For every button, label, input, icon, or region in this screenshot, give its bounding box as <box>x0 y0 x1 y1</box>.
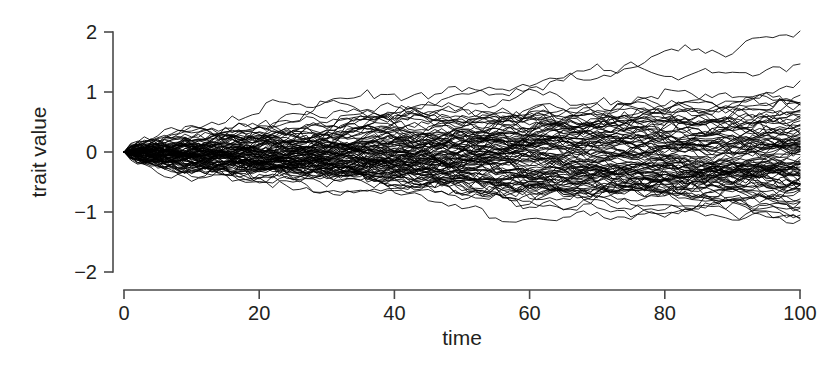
y-tick-label: 1 <box>86 81 97 103</box>
x-tick-label: 60 <box>518 302 540 324</box>
x-tick-label: 100 <box>783 302 816 324</box>
x-axis-title: time <box>442 326 482 349</box>
x-tick-label: 40 <box>383 302 405 324</box>
y-tick-label: 0 <box>86 141 97 163</box>
y-axis-title: trait value <box>27 106 50 197</box>
x-tick-label: 20 <box>248 302 270 324</box>
brownian-motion-chart: −2−1012 trait value 020406080100 time <box>0 0 825 369</box>
y-tick-label: 2 <box>86 21 97 43</box>
x-tick-label: 0 <box>118 302 129 324</box>
y-tick-label: −1 <box>74 201 97 223</box>
x-tick-label: 80 <box>654 302 676 324</box>
y-tick-label: −2 <box>74 261 97 283</box>
